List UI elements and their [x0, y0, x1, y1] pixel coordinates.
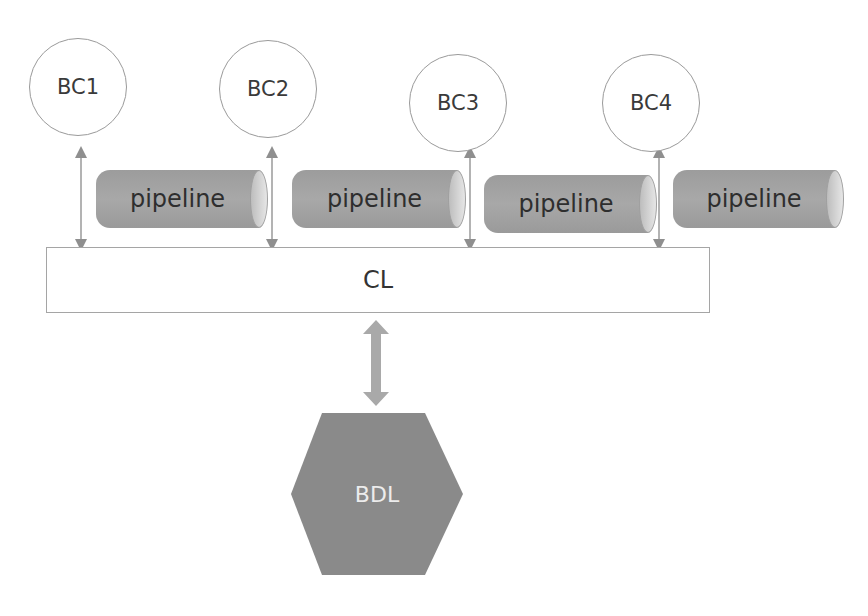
pipeline-2-label: pipeline [327, 185, 422, 213]
pipeline-cap [639, 175, 657, 233]
bc3-node: BC3 [409, 54, 507, 152]
pipeline-2: pipeline [292, 170, 457, 228]
bdl-label: BDL [355, 482, 399, 507]
bc2-label: BC2 [247, 77, 289, 101]
bc2-node: BC2 [219, 40, 317, 138]
bc4-node: BC4 [602, 54, 700, 152]
bc1-node: BC1 [29, 38, 127, 136]
pipeline-1: pipeline [96, 170, 259, 228]
cl-label: CL [363, 266, 393, 294]
pipeline-1-label: pipeline [130, 185, 225, 213]
bc1-label: BC1 [57, 75, 99, 99]
pipeline-cap [448, 170, 466, 228]
bc3-label: BC3 [437, 91, 479, 115]
pipeline-3-label: pipeline [518, 190, 613, 218]
common-layer-box: CL [46, 247, 710, 313]
pipeline-cap [250, 170, 268, 228]
bdl-label-container: BDL [290, 412, 464, 576]
pipeline-3: pipeline [484, 175, 648, 233]
pipeline-4: pipeline [673, 170, 835, 228]
bc4-label: BC4 [630, 91, 672, 115]
cl-bdl-arrow [363, 320, 389, 406]
pipeline-4-label: pipeline [706, 185, 801, 213]
pipeline-cap [826, 170, 844, 228]
